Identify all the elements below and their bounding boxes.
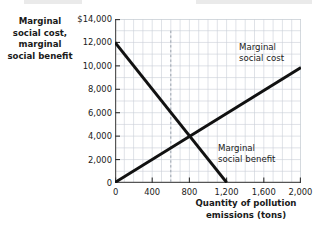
- plot-area: Marginal social cost Marginal social ben…: [115, 19, 301, 183]
- y-axis-tick-labels: $14,000 12,000 10,000 8,000 6,000 4,000 …: [57, 19, 112, 183]
- msb-label-line-2: social benefit: [218, 154, 276, 165]
- y-tick-label: 10,000: [60, 62, 112, 71]
- marginal-social-cost-label: Marginal social cost: [239, 42, 284, 63]
- chart-figure: Marginal social cost, marginal social be…: [0, 0, 321, 228]
- x-tick-label: 2,000: [278, 188, 321, 197]
- page-bleed-mark-right: [196, 0, 312, 4]
- y-tick-label: 8,000: [60, 85, 112, 94]
- y-tick-label: 4,000: [60, 132, 112, 141]
- msc-label-line-2: social cost: [239, 53, 284, 64]
- marginal-social-benefit-label: Marginal social benefit: [218, 143, 276, 164]
- x-axis-title: Quantity of pollution emissions (tons): [172, 198, 320, 221]
- page-bleed-mark-left: [24, 0, 82, 4]
- y-tick-label: 12,000: [60, 38, 112, 47]
- msb-label-line-1: Marginal: [218, 143, 276, 154]
- y-tick-label: 0: [60, 179, 112, 188]
- x-axis-title-line-1: Quantity of pollution: [172, 198, 320, 210]
- x-axis-title-line-2: emissions (tons): [172, 210, 320, 222]
- y-tick-label: $14,000: [60, 15, 112, 24]
- y-tick-label: 2,000: [60, 156, 112, 165]
- y-tick-label: 6,000: [60, 109, 112, 118]
- msc-label-line-1: Marginal: [239, 42, 284, 53]
